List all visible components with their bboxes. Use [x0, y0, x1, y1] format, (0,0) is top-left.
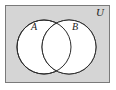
- set-a-label: A: [30, 21, 38, 32]
- venn-diagram-figure: U A B: [0, 0, 116, 90]
- venn-diagram-canvas: U A B: [0, 0, 116, 90]
- set-b-label: B: [72, 21, 78, 32]
- universal-set-label: U: [96, 6, 105, 18]
